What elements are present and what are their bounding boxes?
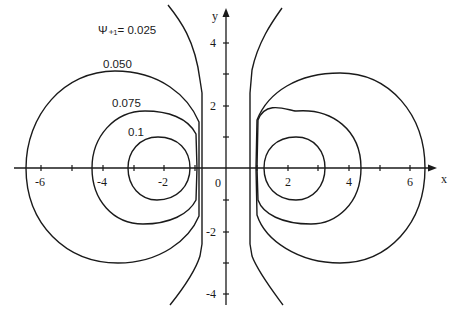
x-tick-label: 0 bbox=[215, 176, 221, 190]
y-axis bbox=[223, 8, 230, 305]
y-tick-label: 2 bbox=[210, 99, 216, 113]
contour-label-0.075: 0.075 bbox=[112, 97, 141, 109]
contour-diagram: x y -6 -4 -2 0 2 4 6 4 2 -2 -4 Ψ₊₁= 0.02… bbox=[0, 0, 452, 317]
x-tick-label: 2 bbox=[285, 175, 291, 189]
y-tick-label: -4 bbox=[206, 287, 216, 301]
contour-0.075-right bbox=[257, 108, 361, 224]
y-axis-label: y bbox=[212, 9, 218, 23]
contour-label-0.050: 0.050 bbox=[103, 58, 132, 70]
x-tick-label: -4 bbox=[97, 175, 107, 189]
y-tick-label: -2 bbox=[206, 225, 216, 239]
y-axis-arrow-icon bbox=[223, 8, 230, 17]
contour-label-0.025: Ψ₊₁= 0.025 bbox=[98, 24, 156, 36]
contour-label-0.1: 0.1 bbox=[128, 126, 144, 138]
x-tick-label: -6 bbox=[35, 175, 45, 189]
x-axis-arrow-icon bbox=[428, 165, 437, 172]
y-tick-label: 4 bbox=[210, 36, 216, 50]
x-tick-label: 4 bbox=[346, 175, 352, 189]
x-tick-label: 6 bbox=[407, 175, 413, 189]
x-axis-label: x bbox=[441, 172, 447, 186]
x-tick-label: -2 bbox=[158, 175, 168, 189]
